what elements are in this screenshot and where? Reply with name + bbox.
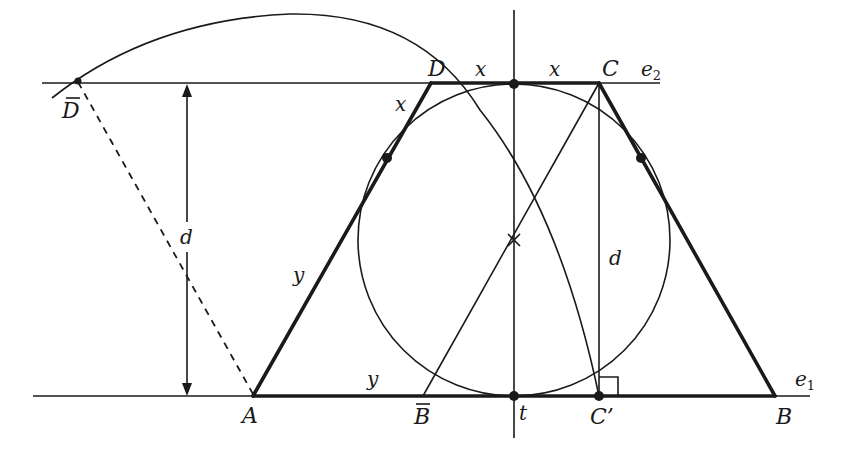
point-tangent-left xyxy=(382,153,392,163)
label-Dbar: D xyxy=(61,98,80,123)
label-d-left: d xyxy=(180,225,193,249)
label-B: B xyxy=(775,404,792,429)
dashed-segment-Dbar-A xyxy=(78,82,253,394)
point-tangent-top xyxy=(509,79,519,89)
label-Cprime: C’ xyxy=(590,404,614,429)
point-tangent-bottom xyxy=(509,391,519,401)
label-e1: e1 xyxy=(795,367,815,393)
label-D: D xyxy=(427,56,446,81)
label-x-top-right: x xyxy=(549,57,560,81)
label-A: A xyxy=(240,403,258,428)
label-y-side: y xyxy=(292,263,305,287)
label-e2: e2 xyxy=(641,57,661,83)
label-C: C xyxy=(602,56,619,81)
label-x-top-left: x xyxy=(475,57,486,81)
side-AD xyxy=(253,83,431,396)
arrowhead-down-icon xyxy=(182,383,192,396)
label-t: t xyxy=(519,401,528,425)
point-Dbar xyxy=(75,78,82,85)
line-Bbar-C xyxy=(423,83,599,396)
label-x-side: x xyxy=(395,92,406,116)
arrowhead-up-icon xyxy=(182,84,192,97)
arc-centered-at-A xyxy=(52,14,599,396)
trapezoid-construction-diagram: D D x x C e2 x d d y y A B t C’ B e1 xyxy=(0,0,844,459)
label-Bbar: B xyxy=(413,404,430,429)
label-y-base: y xyxy=(366,367,379,391)
label-d-right: d xyxy=(609,246,622,270)
point-tangent-right xyxy=(636,153,646,163)
point-Cprime xyxy=(594,391,604,401)
